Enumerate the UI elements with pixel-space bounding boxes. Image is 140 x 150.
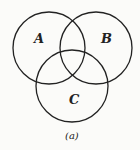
label-b: B	[100, 31, 112, 46]
circle-a	[13, 12, 85, 84]
label-a: A	[32, 31, 44, 46]
circle-b	[60, 12, 132, 84]
venn-diagram: A B C (a)	[0, 0, 140, 150]
caption: (a)	[65, 130, 79, 141]
circle-c	[36, 50, 108, 122]
label-c: C	[69, 92, 80, 107]
